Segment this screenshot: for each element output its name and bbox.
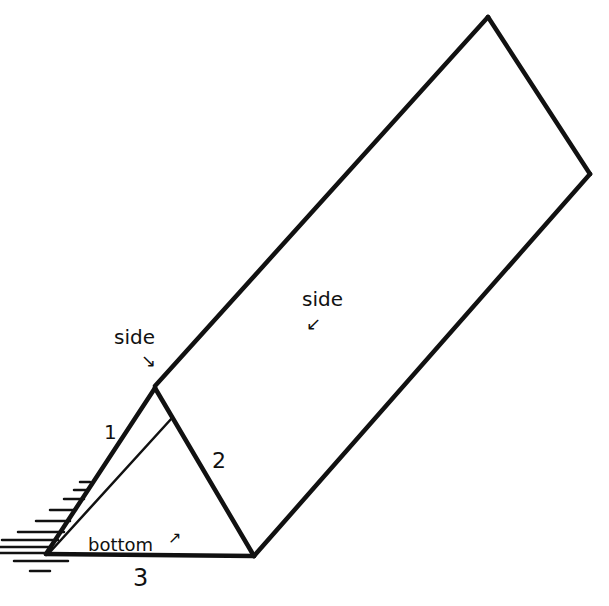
wall-hatching [0, 482, 90, 571]
arrow-side-left-icon: ↘ [141, 350, 156, 371]
edge-1 [46, 388, 155, 554]
arrow-side-right-icon: ↙ [306, 313, 321, 334]
label-side-right: side [302, 287, 343, 311]
label-edge-3: 3 [133, 564, 148, 592]
prism-diagram: side ↘ side ↙ 1 2 bottom ↗ 3 [0, 0, 609, 606]
label-side-left: side [114, 325, 155, 349]
label-edge-1: 1 [104, 420, 117, 444]
label-edge-2: 2 [212, 448, 226, 473]
label-bottom: bottom [88, 534, 153, 555]
arrow-bottom-icon: ↗ [168, 528, 181, 547]
prism-body [155, 17, 590, 556]
